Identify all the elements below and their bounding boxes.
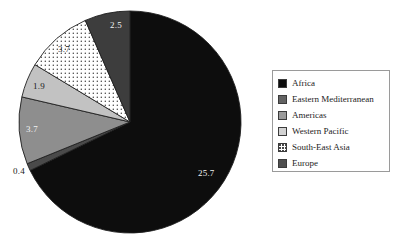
legend-item-europe[interactable]: Europe	[278, 155, 385, 171]
legend-item-south-east-asia[interactable]: South-East Asia	[278, 139, 385, 155]
legend-label-africa: Africa	[292, 78, 315, 88]
legend-item-americas[interactable]: Americas	[278, 107, 385, 123]
legend-swatch-western-pacific	[278, 127, 287, 136]
legend-label-eastern-mediterranean: Eastern Mediterranean	[292, 94, 374, 104]
legend-swatch-africa	[278, 79, 287, 88]
pie-chart-figure: 25.7 0.4 3.7 1.9 3.7 2.5 Africa Eastern …	[0, 0, 400, 245]
legend-label-western-pacific: Western Pacific	[292, 126, 349, 136]
pie-chart-area: 25.7 0.4 3.7 1.9 3.7 2.5	[0, 0, 260, 245]
chart-legend: Africa Eastern Mediterranean Americas We…	[272, 70, 390, 172]
legend-swatch-eastern-mediterranean	[278, 95, 287, 104]
legend-swatch-south-east-asia	[278, 143, 287, 152]
legend-swatch-europe	[278, 159, 287, 168]
legend-item-africa[interactable]: Africa	[278, 75, 385, 91]
pie-svg	[0, 0, 260, 245]
legend-label-south-east-asia: South-East Asia	[292, 142, 350, 152]
legend-label-europe: Europe	[292, 158, 318, 168]
pie-slices	[19, 11, 241, 233]
legend-swatch-americas	[278, 111, 287, 120]
legend-label-americas: Americas	[292, 110, 326, 120]
legend-item-eastern-mediterranean[interactable]: Eastern Mediterranean	[278, 91, 385, 107]
legend-item-western-pacific[interactable]: Western Pacific	[278, 123, 385, 139]
